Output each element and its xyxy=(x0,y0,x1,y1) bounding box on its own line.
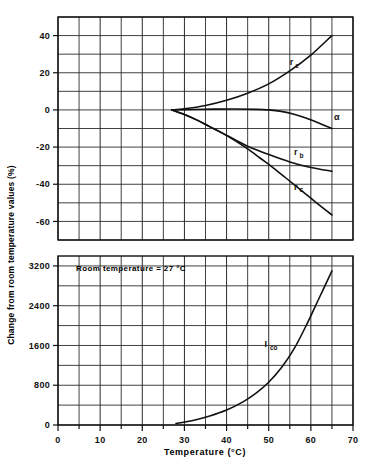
y-axis-title: Change from room temperature values (%) xyxy=(6,165,16,345)
bottom-y-tick-label-3200: 3200 xyxy=(29,261,50,271)
bottom-y-tick-label-2400: 2400 xyxy=(29,301,50,311)
curve-label-rb-subscript: b xyxy=(300,152,304,159)
x-tick-label-60: 60 xyxy=(306,435,317,445)
x-tick-label-20: 20 xyxy=(137,435,148,445)
curve-label-re-subscript: e xyxy=(295,62,299,69)
x-tick-label-40: 40 xyxy=(221,435,232,445)
x-tick-label-50: 50 xyxy=(263,435,274,445)
x-tick-label-0: 0 xyxy=(55,435,60,445)
top-y-tick-label-0: 0 xyxy=(45,105,50,115)
x-tick-label-70: 70 xyxy=(348,435,359,445)
curve-label-alpha: α xyxy=(334,112,340,122)
chart-figure: 01020304050607040200-20-40-6032002400160… xyxy=(0,0,369,476)
room-temperature-note: Room temperature = 27 °C xyxy=(76,264,186,273)
curve-label-rc-subscript: c xyxy=(300,186,304,193)
top-y-tick-label--20: -20 xyxy=(36,142,50,152)
chart-canvas: 01020304050607040200-20-40-6032002400160… xyxy=(0,0,369,476)
top-y-tick-label--40: -40 xyxy=(36,179,50,189)
bottom-y-tick-label-0: 0 xyxy=(45,420,50,430)
curve-label-Ico-subscript: co xyxy=(270,344,278,351)
x-tick-label-30: 30 xyxy=(179,435,190,445)
curve-label-rb: r xyxy=(294,147,298,157)
curve-label-re: r xyxy=(290,57,294,67)
bottom-y-tick-label-800: 800 xyxy=(34,380,50,390)
x-tick-label-10: 10 xyxy=(95,435,106,445)
top-y-tick-label-40: 40 xyxy=(39,31,50,41)
curve-label-rc: r xyxy=(294,182,298,192)
top-y-tick-label-20: 20 xyxy=(39,68,50,78)
top-y-tick-label--60: -60 xyxy=(36,217,50,227)
bottom-y-tick-label-1600: 1600 xyxy=(29,341,50,351)
curve-label-Ico: I xyxy=(265,339,268,349)
x-axis-title: Temperature (°C) xyxy=(164,447,246,457)
